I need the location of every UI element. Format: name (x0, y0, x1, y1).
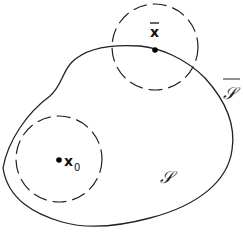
closure-label: 𝒮 (223, 79, 241, 103)
svg-text:𝒮: 𝒮 (223, 83, 241, 103)
interior-point-dot (56, 157, 62, 163)
boundary-point-label: x (150, 23, 159, 40)
boundary-neighborhood-circle (112, 4, 198, 90)
svg-text:x: x (64, 153, 73, 169)
boundary-point-dot (152, 47, 158, 53)
region-boundary (3, 46, 233, 227)
region-label: 𝒮 (160, 167, 178, 187)
svg-text:0: 0 (74, 162, 80, 173)
interior-point-label: x 0 (64, 153, 80, 173)
svg-text:x: x (150, 24, 159, 40)
set-diagram: x x 0 𝒮 𝒮 (0, 0, 243, 234)
